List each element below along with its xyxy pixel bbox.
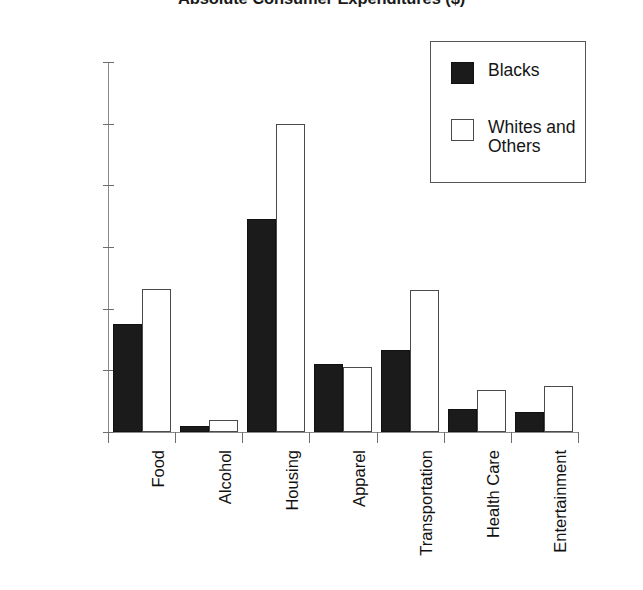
x-axis-tick [444,432,445,443]
bar [113,324,142,432]
y-axis-tick [103,185,114,186]
bar [544,386,573,432]
legend-item-blacks: Blacks [451,61,540,84]
x-axis-category-label: Alcohol [217,450,234,504]
x-axis-category-label: Health Care [485,450,502,538]
bar [515,412,544,432]
legend-item-whites-and-others: Whites and Others [451,118,585,156]
y-axis-tick [103,62,114,63]
bar-chart: Absolute Consumer Expenditures ($) 02,00… [0,0,643,590]
legend-label-blacks: Blacks [488,61,540,80]
legend: Blacks Whites and Others [430,41,586,183]
legend-label-whites-and-others: Whites and Others [488,118,585,156]
x-axis-tick [108,432,109,443]
x-axis-tick [309,432,310,443]
x-axis-tick [175,432,176,443]
bar [381,350,410,432]
chart-title: Absolute Consumer Expenditures ($) [0,0,643,8]
bar [410,290,439,432]
x-axis-tick [578,432,579,443]
x-axis-tick [242,432,243,443]
x-axis-line [108,432,578,433]
bar [477,390,506,432]
y-axis-tick [103,124,114,125]
bar [209,420,238,432]
x-axis-tick [511,432,512,443]
x-axis-category-label: Entertainment [552,450,569,553]
bar [142,289,171,432]
y-axis-line [108,62,109,436]
x-axis-category-label: Food [150,450,167,488]
legend-swatch-blacks-icon [451,62,474,84]
bar [448,409,477,432]
bar [247,219,276,432]
x-axis-category-label: Housing [284,450,301,511]
y-axis-tick [103,247,114,248]
bar [343,367,372,432]
x-axis-category-label: Transportation [418,450,435,556]
bar [180,426,209,432]
y-axis-tick [103,309,114,310]
legend-swatch-whites-and-others-icon [451,119,474,141]
chart-title-clip: Absolute Consumer Expenditures ($) [0,0,643,12]
bar [314,364,343,432]
bar [276,124,305,432]
x-axis-category-label: Apparel [351,450,368,507]
x-axis-tick [377,432,378,443]
